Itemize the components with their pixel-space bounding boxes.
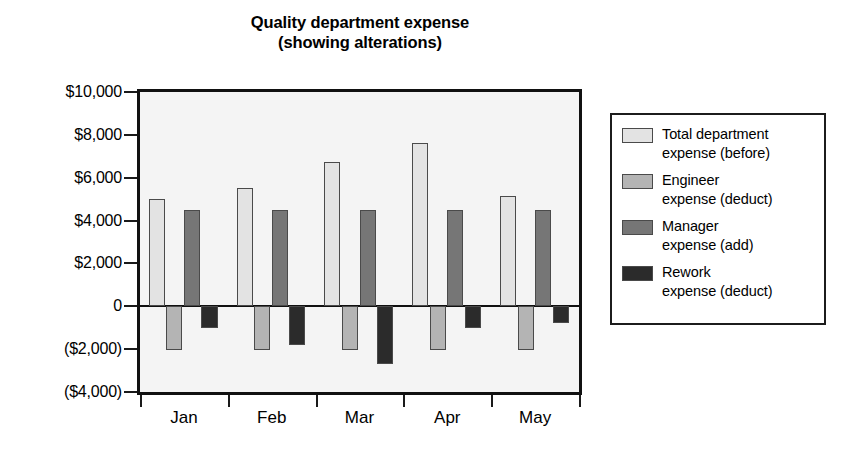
y-tick-mark — [124, 391, 137, 393]
y-tick-label: $10,000 — [66, 84, 122, 100]
y-tick-mark — [124, 220, 137, 222]
bar — [412, 143, 428, 306]
legend-item[interactable]: Total department expense (before) — [622, 125, 816, 162]
bar — [237, 188, 253, 306]
bar — [184, 210, 200, 306]
x-tick-label: Feb — [257, 409, 286, 426]
y-tick-label: $6,000 — [74, 170, 122, 186]
y-axis: $10,000$8,000$6,000$4,000$2,0000($2,000)… — [0, 89, 122, 395]
x-tick-mark — [579, 395, 581, 407]
bar — [535, 210, 551, 306]
legend-label: Total department expense (before) — [662, 125, 770, 162]
legend-swatch-icon — [622, 128, 653, 143]
x-tick-mark — [140, 395, 142, 407]
bar — [518, 306, 534, 350]
plot-inner — [140, 92, 579, 392]
x-tick-mark — [491, 395, 493, 407]
chart-figure: Quality department expense (showing alte… — [0, 0, 849, 463]
y-tick-label: ($2,000) — [64, 341, 122, 357]
x-tick-label: Apr — [434, 409, 460, 426]
legend-label: Manager expense (add) — [662, 217, 753, 254]
x-axis: JanFebMarAprMay — [137, 395, 582, 455]
y-tick-label: ($4,000) — [64, 384, 122, 400]
y-tick-label: 0 — [113, 298, 122, 314]
x-tick-mark — [228, 395, 230, 407]
x-tick-label: May — [519, 409, 551, 426]
bar — [201, 306, 217, 327]
bar — [447, 210, 463, 306]
chart-legend: Total department expense (before)Enginee… — [610, 113, 826, 325]
y-tick-label: $2,000 — [74, 255, 122, 271]
legend-swatch-icon — [622, 266, 653, 281]
legend-label: Rework expense (deduct) — [662, 263, 772, 300]
y-tick-label: $4,000 — [74, 213, 122, 229]
x-tick-mark — [403, 395, 405, 407]
bar — [166, 306, 182, 350]
bar — [342, 306, 358, 350]
x-tick-label: Mar — [345, 409, 374, 426]
bar — [254, 306, 270, 350]
x-tick-mark — [316, 395, 318, 407]
bar — [377, 306, 393, 364]
y-tick-mark — [124, 91, 137, 93]
bar — [430, 306, 446, 350]
plot-area — [137, 89, 582, 395]
y-tick-mark — [124, 348, 137, 350]
legend-item[interactable]: Rework expense (deduct) — [622, 263, 816, 300]
legend-swatch-icon — [622, 220, 653, 235]
chart-title-line-2: (showing alterations) — [130, 32, 590, 52]
legend-label: Engineer expense (deduct) — [662, 171, 772, 208]
bar — [553, 306, 569, 323]
y-tick-mark — [124, 262, 137, 264]
y-tick-mark — [124, 134, 137, 136]
bar — [465, 306, 481, 327]
bar — [500, 196, 516, 306]
bar — [272, 210, 288, 306]
y-tick-label: $8,000 — [74, 127, 122, 143]
x-tick-label: Jan — [170, 409, 197, 426]
bar — [324, 162, 340, 307]
bar — [149, 199, 165, 306]
legend-item[interactable]: Engineer expense (deduct) — [622, 171, 816, 208]
y-tick-mark — [124, 305, 137, 307]
chart-title: Quality department expense (showing alte… — [130, 12, 590, 52]
chart-title-line-1: Quality department expense — [130, 12, 590, 32]
bar — [289, 306, 305, 345]
y-tick-mark — [124, 177, 137, 179]
legend-item[interactable]: Manager expense (add) — [622, 217, 816, 254]
legend-swatch-icon — [622, 174, 653, 189]
bar — [360, 210, 376, 306]
